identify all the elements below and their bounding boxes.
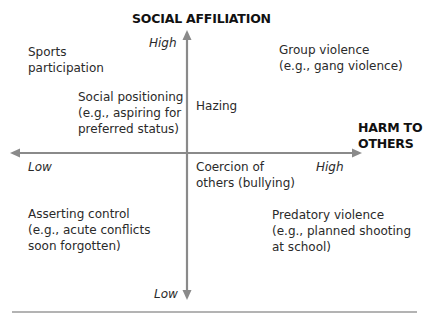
item-line: Coercion of [196, 159, 295, 175]
item-line: Social positioning [78, 89, 183, 105]
item-line: Predatory violence [272, 207, 411, 223]
item-line: others (bullying) [196, 175, 295, 191]
item-sports-participation: Sports participation [28, 44, 104, 76]
item-line: (e.g., gang violence) [279, 58, 403, 74]
item-line: (e.g., acute conflicts [28, 222, 150, 238]
item-asserting-control: Asserting control (e.g., acute conflicts… [28, 206, 150, 254]
y-axis-low-label: Low [154, 286, 178, 302]
x-axis-title-line1: HARM TO [358, 120, 422, 136]
item-line: (e.g., aspiring for [78, 105, 183, 121]
item-line: Sports [28, 44, 104, 60]
item-line: participation [28, 60, 104, 76]
arrow-up-icon [183, 30, 192, 40]
item-predatory-violence: Predatory violence (e.g., planned shooti… [272, 207, 411, 255]
x-axis-high-label: High [316, 159, 344, 175]
x-axis-title: HARM TO OTHERS [358, 120, 422, 152]
y-axis-high-label: High [149, 35, 177, 51]
item-line: preferred status) [78, 121, 183, 137]
item-line: Group violence [279, 42, 403, 58]
x-axis-low-label: Low [28, 159, 52, 175]
arrow-left-icon [10, 149, 20, 158]
y-axis-title: SOCIAL AFFILIATION [132, 11, 271, 27]
item-line: at school) [272, 239, 411, 255]
item-social-positioning: Social positioning (e.g., aspiring for p… [78, 89, 183, 137]
item-line: (e.g., planned shooting [272, 223, 411, 239]
item-line: Asserting control [28, 206, 150, 222]
item-line: soon forgotten) [28, 238, 150, 254]
item-coercion-bullying: Coercion of others (bullying) [196, 159, 295, 191]
item-group-violence: Group violence (e.g., gang violence) [279, 42, 403, 74]
arrow-down-icon [183, 290, 192, 300]
x-axis-title-line2: OTHERS [358, 136, 422, 152]
item-line: Hazing [196, 98, 237, 114]
item-hazing: Hazing [196, 98, 237, 114]
